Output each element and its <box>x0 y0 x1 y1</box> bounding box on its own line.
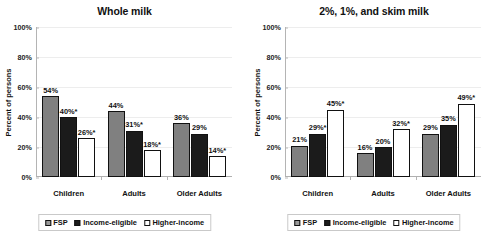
legend-item[interactable]: Income-eligible <box>75 218 137 227</box>
x-axis-category-label: Adults <box>371 189 395 198</box>
bar <box>209 156 226 177</box>
gridline <box>36 57 232 58</box>
bar-value-label: 29% <box>423 123 438 132</box>
y-axis-tick-label: 0% <box>271 173 285 182</box>
y-axis-line <box>285 27 286 177</box>
y-axis-tick-mark <box>285 177 288 178</box>
bar <box>309 134 326 178</box>
bar-value-label: 29%* <box>309 123 327 132</box>
y-axis-title: Percent of persons <box>2 27 16 177</box>
bar <box>422 134 439 178</box>
bar-value-label: 40%* <box>60 107 78 116</box>
bar <box>144 150 161 177</box>
bar-value-label: 31%* <box>125 120 143 129</box>
bar-value-label: 18%* <box>143 140 161 149</box>
bar-value-label: 36% <box>174 113 189 122</box>
bar-value-label: 20% <box>376 137 391 146</box>
chart-panel-lowfat-milk: 2%, 1%, and skim milkPercent of personsC… <box>249 0 499 239</box>
gridline <box>285 87 481 88</box>
gridline <box>285 57 481 58</box>
bar-value-label: 29% <box>192 123 207 132</box>
bar-value-label: 32%* <box>392 119 410 128</box>
x-axis-group-tick <box>416 177 417 180</box>
legend-label: Higher-income <box>152 218 204 227</box>
dual-bar-chart-figure: Whole milkPercent of personsChildrenAdul… <box>0 0 499 239</box>
bar-value-label: 16% <box>358 143 373 152</box>
x-axis-category-label: Older Adults <box>426 189 471 198</box>
legend-item[interactable]: FSP <box>294 218 317 227</box>
y-axis-title-text: Percent of persons <box>254 68 263 136</box>
y-axis-tick-label: 60% <box>18 83 36 92</box>
y-axis-tick-label: 20% <box>267 143 285 152</box>
bar <box>42 96 59 177</box>
y-axis-tick-label: 80% <box>267 53 285 62</box>
bar-value-label: 54% <box>43 86 58 95</box>
bar <box>173 123 190 177</box>
legend-label: FSP <box>53 218 67 227</box>
bar-value-label: 26%* <box>78 128 96 137</box>
bar <box>108 111 125 177</box>
legend-item[interactable]: FSP <box>45 218 68 227</box>
y-axis-tick-label: 100% <box>263 23 285 32</box>
legend-swatch-icon <box>393 220 399 226</box>
gridline <box>285 27 481 28</box>
legend-item[interactable]: Income-eligible <box>324 218 386 227</box>
legend-label: FSP <box>303 218 317 227</box>
bar <box>78 138 95 177</box>
bar-value-label: 21% <box>292 135 307 144</box>
plot-area: 0%20%40%60%80%100%54%40%*26%*44%31%*18%*… <box>36 27 232 177</box>
gridline <box>36 87 232 88</box>
y-axis-tick-label: 40% <box>267 113 285 122</box>
legend-label: Higher-income <box>402 218 454 227</box>
y-axis-tick-label: 100% <box>14 23 36 32</box>
bar <box>458 104 475 178</box>
legend-swatch-icon <box>75 220 81 226</box>
bar-value-label: 35% <box>441 114 456 123</box>
bar-value-label: 14%* <box>208 146 226 155</box>
chart-legend: FSPIncome-eligibleHigher-income <box>287 214 460 231</box>
chart-title: Whole milk <box>0 5 249 17</box>
y-axis-tick-mark <box>36 177 39 178</box>
x-axis-category-label: Children <box>302 189 333 198</box>
y-axis-title: Percent of persons <box>251 27 265 177</box>
legend-swatch-icon <box>45 220 51 226</box>
x-axis-category-label: Older Adults <box>177 189 222 198</box>
bar <box>357 153 374 177</box>
chart-legend: FSPIncome-eligibleHigher-income <box>38 214 211 231</box>
y-axis-title-text: Percent of persons <box>5 68 14 136</box>
bar <box>60 117 77 177</box>
bar <box>393 129 410 177</box>
y-axis-tick-label: 60% <box>267 83 285 92</box>
y-axis-tick-label: 40% <box>18 113 36 122</box>
y-axis-tick-label: 20% <box>18 143 36 152</box>
y-axis-tick-label: 80% <box>18 53 36 62</box>
legend-label: Income-eligible <box>83 218 137 227</box>
bar <box>375 147 392 177</box>
legend-swatch-icon <box>144 220 150 226</box>
x-axis-group-tick <box>101 177 102 180</box>
bar <box>440 125 457 178</box>
legend-item[interactable]: Higher-income <box>393 218 453 227</box>
plot-area: 0%20%40%60%80%100%21%29%*45%*16%20%32%*2… <box>285 27 481 177</box>
x-axis-group-tick <box>350 177 351 180</box>
chart-panel-whole-milk: Whole milkPercent of personsChildrenAdul… <box>0 0 249 239</box>
x-axis-category-label: Adults <box>122 189 146 198</box>
y-axis-tick-label: 0% <box>22 173 36 182</box>
legend-item[interactable]: Higher-income <box>144 218 204 227</box>
legend-swatch-icon <box>324 220 330 226</box>
x-axis-group-tick <box>167 177 168 180</box>
bar <box>191 134 208 178</box>
bar-value-label: 44% <box>109 101 124 110</box>
bar-value-label: 45%* <box>327 99 345 108</box>
legend-swatch-icon <box>294 220 300 226</box>
bar-value-label: 49%* <box>457 93 475 102</box>
gridline <box>36 27 232 28</box>
bar <box>327 110 344 178</box>
legend-label: Income-eligible <box>333 218 387 227</box>
y-axis-line <box>36 27 37 177</box>
chart-title: 2%, 1%, and skim milk <box>249 5 499 17</box>
x-axis-category-label: Children <box>53 189 84 198</box>
bar <box>126 131 143 178</box>
bar <box>291 146 308 178</box>
